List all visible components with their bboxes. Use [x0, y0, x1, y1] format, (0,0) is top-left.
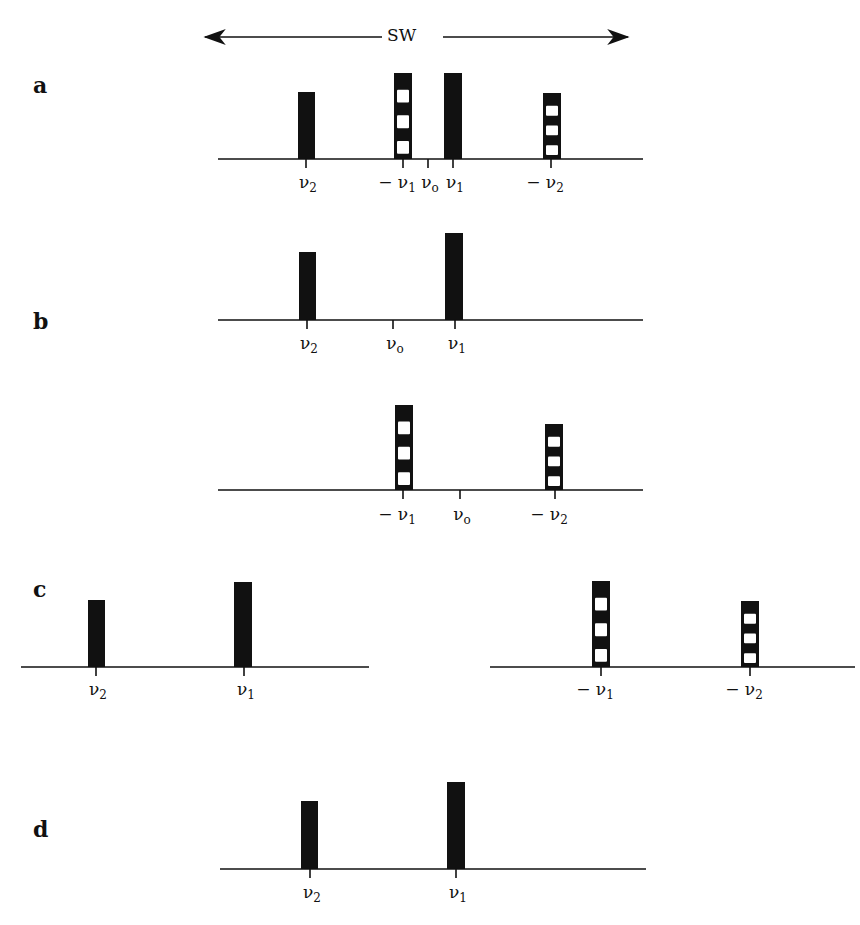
frequency-label: νo	[386, 333, 404, 356]
peak	[445, 233, 463, 320]
frequency-label: − ν1	[378, 172, 416, 195]
panel-c-left	[21, 582, 369, 676]
frequency-label: − ν2	[725, 679, 763, 702]
frequency-label: − ν1	[378, 504, 416, 527]
peak	[447, 782, 465, 869]
panel-letter-d: d	[33, 816, 48, 842]
frequency-label: ν1	[446, 172, 464, 195]
panel-d	[220, 782, 646, 878]
panel-letter-a: a	[33, 72, 47, 98]
panel-letter-b: b	[33, 308, 48, 334]
panel-b-top	[218, 233, 643, 329]
frequency-label: ν2	[303, 882, 321, 905]
frequency-label: ν2	[300, 333, 318, 356]
spectrum-diagram: SW ν2− ν1νoν1− ν2aν2νoν1b− ν1νo− ν2ν2ν1c…	[0, 0, 860, 925]
mirror-peak	[394, 73, 412, 159]
frequency-label: ν2	[89, 679, 107, 702]
peak	[444, 73, 462, 159]
mirror-peak	[592, 581, 610, 667]
mirror-peak	[543, 93, 561, 159]
panel-b-bottom	[218, 405, 643, 499]
frequency-label: νo	[453, 504, 471, 527]
peak	[301, 801, 318, 869]
sw-label: SW	[387, 25, 416, 45]
peak	[299, 252, 316, 320]
frequency-label: − ν2	[530, 504, 568, 527]
peak	[234, 582, 252, 667]
panel-c-right	[490, 581, 855, 676]
frequency-label: ν1	[237, 679, 255, 702]
panel-a	[218, 73, 643, 168]
mirror-peak	[741, 601, 759, 667]
mirror-peak	[395, 405, 413, 490]
frequency-label: − ν2	[526, 172, 564, 195]
frequency-label: νo	[421, 172, 439, 195]
frequency-label: − ν1	[576, 679, 614, 702]
frequency-label: ν1	[448, 333, 466, 356]
frequency-label: ν2	[299, 172, 317, 195]
peak	[298, 92, 315, 159]
frequency-label: ν1	[449, 882, 467, 905]
mirror-peak	[545, 424, 563, 490]
spectrum-figure	[0, 0, 860, 925]
peak	[88, 600, 105, 667]
panel-letter-c: c	[33, 576, 46, 602]
